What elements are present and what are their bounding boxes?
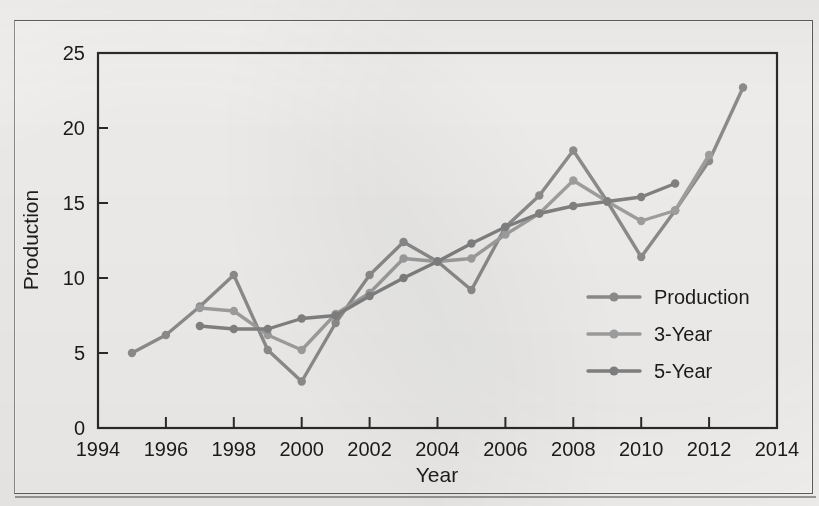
y-tick-label: 10 bbox=[63, 267, 85, 289]
legend-label: 5-Year bbox=[654, 360, 713, 382]
series-line bbox=[132, 88, 743, 382]
x-axis-title: Year bbox=[416, 463, 458, 486]
data-point bbox=[230, 325, 238, 333]
y-tick-label: 5 bbox=[74, 342, 85, 364]
data-point bbox=[230, 271, 238, 279]
y-axis-tick-labels: 0510152025 bbox=[63, 42, 85, 439]
chart-legend: Production3-Year5-Year bbox=[588, 286, 750, 382]
y-tick-label: 0 bbox=[74, 417, 85, 439]
x-axis-tick-labels: 1994199619982000200220042006200820102012… bbox=[76, 438, 800, 460]
data-point bbox=[637, 253, 645, 261]
x-tick-label: 2002 bbox=[347, 438, 392, 460]
legend-label: 3-Year bbox=[654, 323, 713, 345]
data-point bbox=[569, 146, 577, 154]
data-point bbox=[331, 319, 339, 327]
x-tick-label: 1996 bbox=[144, 438, 189, 460]
data-point bbox=[671, 206, 679, 214]
data-point bbox=[196, 304, 204, 312]
line-chart: 0510152025 19941996199820002002200420062… bbox=[0, 0, 819, 506]
data-point bbox=[331, 311, 339, 319]
legend-label: Production bbox=[654, 286, 750, 308]
data-point bbox=[705, 151, 713, 159]
data-point bbox=[399, 274, 407, 282]
data-point bbox=[467, 239, 475, 247]
data-point bbox=[467, 286, 475, 294]
data-point bbox=[399, 254, 407, 262]
data-point bbox=[230, 307, 238, 315]
data-point bbox=[433, 257, 441, 265]
x-tick-label: 2000 bbox=[279, 438, 324, 460]
legend-item[interactable]: 5-Year bbox=[588, 360, 713, 382]
y-axis-title: Production bbox=[19, 190, 42, 290]
chart-canvas: 0510152025 19941996199820002002200420062… bbox=[0, 0, 819, 506]
data-point bbox=[501, 230, 509, 238]
data-point bbox=[739, 83, 747, 91]
data-point bbox=[535, 209, 543, 217]
series-5-year bbox=[196, 179, 680, 333]
data-point bbox=[603, 197, 611, 205]
data-point bbox=[128, 349, 136, 357]
data-point bbox=[298, 377, 306, 385]
data-point bbox=[501, 223, 509, 231]
x-tick-label: 2006 bbox=[483, 438, 528, 460]
data-point bbox=[637, 193, 645, 201]
data-point bbox=[535, 191, 543, 199]
x-tick-label: 1994 bbox=[76, 438, 121, 460]
data-point bbox=[264, 325, 272, 333]
data-point bbox=[569, 176, 577, 184]
x-tick-label: 2008 bbox=[551, 438, 596, 460]
legend-marker bbox=[609, 366, 618, 375]
data-point bbox=[298, 314, 306, 322]
x-tick-label: 2010 bbox=[619, 438, 664, 460]
data-point bbox=[264, 346, 272, 354]
data-point bbox=[365, 271, 373, 279]
scanned-page: 0510152025 19941996199820002002200420062… bbox=[0, 0, 819, 506]
data-point bbox=[569, 202, 577, 210]
x-axis-ticks bbox=[166, 417, 709, 428]
y-tick-label: 25 bbox=[63, 42, 85, 64]
data-point bbox=[162, 331, 170, 339]
legend-marker bbox=[609, 329, 618, 338]
legend-marker bbox=[609, 292, 618, 301]
y-tick-label: 15 bbox=[63, 192, 85, 214]
data-point bbox=[671, 179, 679, 187]
data-point bbox=[399, 238, 407, 246]
data-point bbox=[637, 217, 645, 225]
data-point bbox=[298, 346, 306, 354]
legend-item[interactable]: Production bbox=[588, 286, 750, 308]
x-tick-label: 2012 bbox=[687, 438, 732, 460]
series-line bbox=[200, 184, 675, 330]
data-point bbox=[196, 322, 204, 330]
data-point bbox=[467, 254, 475, 262]
x-tick-label: 1998 bbox=[212, 438, 257, 460]
y-tick-label: 20 bbox=[63, 117, 85, 139]
x-tick-label: 2004 bbox=[415, 438, 460, 460]
y-axis-ticks bbox=[98, 53, 108, 428]
legend-item[interactable]: 3-Year bbox=[588, 323, 713, 345]
data-point bbox=[365, 292, 373, 300]
x-tick-label: 2014 bbox=[755, 438, 800, 460]
